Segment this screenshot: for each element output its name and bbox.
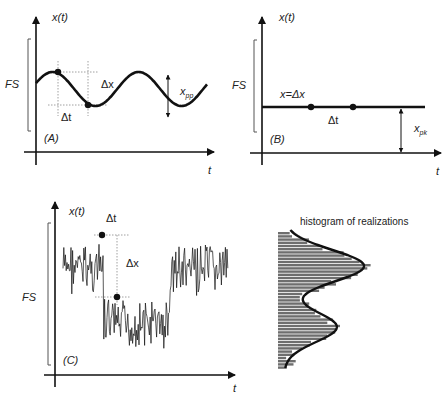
sample-point — [308, 104, 314, 110]
panel-c-delta-t: Δt — [106, 213, 116, 224]
figure: x(t) t FS Δx Δt (A) xpp x(t) t FS x=Δx Δ… — [0, 0, 443, 399]
panel-b-level-label: x=Δx — [280, 89, 305, 100]
panel-a-x-label: t — [208, 165, 211, 176]
figure-graphics — [0, 0, 443, 399]
fs-bracket — [254, 40, 257, 132]
fs-bracket — [28, 39, 31, 131]
panel-b-y-label: x(t) — [279, 12, 295, 23]
panel-c-delta-x: Δx — [126, 258, 139, 269]
panel-b-fs-label: FS — [232, 80, 246, 91]
sample-point — [350, 104, 356, 110]
sample-point — [85, 102, 91, 108]
amplitude-subscript: pp — [186, 92, 194, 99]
histogram-bars — [278, 232, 371, 369]
amplitude-symbol: x — [414, 122, 420, 134]
panel-b-x-label: t — [436, 166, 439, 177]
panel-a-y-label: x(t) — [52, 12, 68, 23]
sample-point — [99, 232, 105, 238]
panel-b-amplitude: xpk — [414, 123, 427, 134]
panel-b-delta-t: Δt — [328, 115, 338, 126]
guide-lines — [94, 235, 130, 305]
amplitude-symbol: x — [180, 85, 186, 97]
panel-c-tag: (C) — [63, 355, 78, 366]
panel-a-fs-label: FS — [5, 79, 19, 90]
panel-c-fs-label: FS — [22, 292, 36, 303]
sample-point — [114, 294, 120, 300]
sample-point — [55, 69, 61, 75]
fs-bracket — [48, 223, 51, 365]
noisy-signal — [63, 244, 228, 348]
panel-c-y-label: x(t) — [69, 206, 85, 217]
histogram-title: histogram of realizations — [300, 216, 408, 227]
histogram — [278, 230, 371, 369]
panel-b-tag: (B) — [270, 134, 285, 145]
panel-a-delta-t: Δt — [61, 112, 71, 123]
panel-c-x-label: t — [233, 383, 236, 394]
panel-a-delta-x: Δx — [101, 79, 114, 90]
panel-a-tag: (A) — [44, 133, 59, 144]
panel-a-amplitude: xpp — [180, 86, 193, 97]
amplitude-subscript: pk — [420, 129, 427, 136]
